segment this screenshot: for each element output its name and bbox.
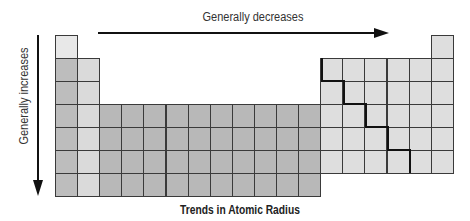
vertical-trend-label: Generally increases (17, 39, 31, 153)
horizontal-trend-label: Generally decreases (161, 10, 346, 24)
metalloid-staircase-line (322, 58, 410, 173)
vertical-arrow-icon (33, 35, 43, 196)
horizontal-arrow-icon (98, 28, 389, 38)
diagram-title: Trends in Atomic Radius (158, 203, 322, 217)
arrows-overlay (0, 0, 470, 221)
